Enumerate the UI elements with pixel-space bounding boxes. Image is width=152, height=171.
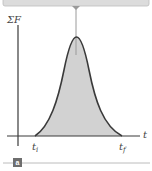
end-time-label: tf xyxy=(119,141,127,154)
force-time-diagram: ΣF t ti tf a xyxy=(0,0,152,171)
x-axis-label: t xyxy=(143,129,148,140)
start-time-label: ti xyxy=(32,141,38,154)
start-time-sub: i xyxy=(36,146,38,154)
y-axis-label: ΣF xyxy=(6,14,22,25)
end-time-sub: f xyxy=(122,146,127,154)
panel-badge-label: a xyxy=(16,159,20,166)
callout-box xyxy=(3,0,149,6)
